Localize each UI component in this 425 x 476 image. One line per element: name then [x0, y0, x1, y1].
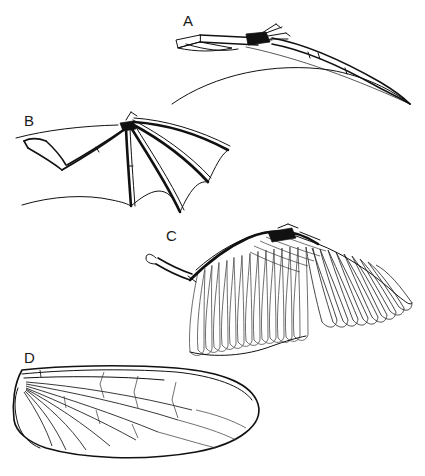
panel-b-label: B	[24, 112, 34, 129]
wing-comparison-figure: A	[0, 0, 425, 476]
panel-d-label: D	[24, 349, 35, 366]
panel-a-label: A	[183, 12, 193, 29]
panel-c-label: C	[166, 227, 177, 244]
wing-illustration-canvas: A	[0, 0, 425, 476]
